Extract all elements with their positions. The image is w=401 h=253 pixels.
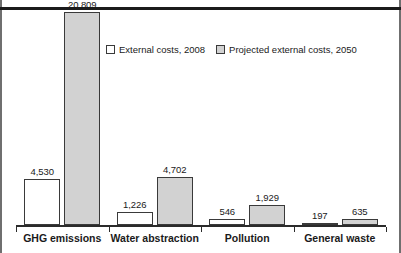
legend-swatch-icon-series-0 xyxy=(106,45,115,54)
bar-value-label-ghg-emissions-series-0: 4,530 xyxy=(16,166,68,177)
bar-value-label-general-waste-series-1: 635 xyxy=(334,206,386,217)
chart-legend: External costs, 2008 Projected external … xyxy=(106,44,357,55)
chart-figure: 4,53020,8091,2264,7025461,929197635 Exte… xyxy=(0,0,401,253)
bar-value-label-pollution-series-0: 546 xyxy=(201,206,253,217)
x-axis-tick-0 xyxy=(16,227,17,232)
x-axis-label-ghg-emissions: GHG emissions xyxy=(16,232,109,244)
legend-label-series-1: Projected external costs, 2050 xyxy=(229,44,357,55)
bar-ghg-emissions-series-0 xyxy=(24,179,60,225)
x-axis-label-pollution: Pollution xyxy=(201,232,294,244)
bar-value-label-water-abstraction-series-0: 1,226 xyxy=(109,199,161,210)
legend-swatch-icon-series-1 xyxy=(216,45,225,54)
bar-ghg-emissions-series-1 xyxy=(64,12,100,225)
x-axis-label-water-abstraction: Water abstraction xyxy=(109,232,202,244)
legend-item-projected-external-costs-2050: Projected external costs, 2050 xyxy=(216,44,357,55)
bar-water-abstraction-series-0 xyxy=(117,212,153,225)
x-axis-tick-3 xyxy=(294,227,295,232)
bar-value-label-pollution-series-1: 1,929 xyxy=(241,192,293,203)
bar-value-label-ghg-emissions-series-1: 20,809 xyxy=(56,0,108,10)
x-axis-tick-2 xyxy=(201,227,202,232)
bar-value-label-water-abstraction-series-1: 4,702 xyxy=(149,164,201,175)
x-axis-tick-1 xyxy=(109,227,110,232)
bar-pollution-series-1 xyxy=(249,205,285,225)
x-axis-label-general-waste: General waste xyxy=(294,232,387,244)
legend-item-external-costs-2008: External costs, 2008 xyxy=(106,44,205,55)
legend-label-series-0: External costs, 2008 xyxy=(119,44,205,55)
x-axis-tick-4 xyxy=(386,227,387,232)
bar-water-abstraction-series-1 xyxy=(157,177,193,225)
page-rule-left xyxy=(0,0,2,253)
